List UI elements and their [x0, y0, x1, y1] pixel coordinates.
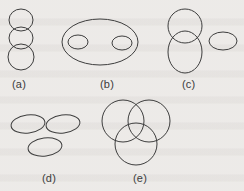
ellipse-a-bottom	[8, 44, 34, 70]
panel-label-c: (c)	[182, 78, 195, 90]
ellipse-d-top-right	[45, 113, 81, 135]
panel-a-shapes	[8, 9, 34, 70]
ellipse-a-top	[9, 9, 33, 31]
panel-c-shapes	[168, 9, 237, 73]
ellipse-d-bottom	[27, 136, 63, 158]
ellipse-c-bottom	[168, 31, 202, 73]
panel-label-d: (d)	[42, 172, 56, 184]
panel-label-e: (e)	[133, 172, 147, 184]
panel-e-shapes	[102, 100, 170, 165]
panel-d-shapes	[10, 113, 81, 158]
panel-b-shapes	[62, 19, 138, 65]
ellipse-d-top-left	[10, 113, 46, 135]
ellipse-c-separate	[209, 32, 237, 50]
panel-label-b: (b)	[100, 78, 114, 90]
ellipse-c-top	[168, 9, 202, 43]
set-diagram-figure: (a)(b)(c)(d)(e)	[0, 0, 244, 191]
shape-layer	[8, 9, 237, 165]
diagram-canvas	[0, 0, 244, 191]
ellipse-b-inner-left	[68, 35, 88, 49]
ellipse-a-middle	[9, 27, 33, 49]
circle-e-top-left	[102, 100, 144, 142]
panel-label-a: (a)	[12, 78, 26, 90]
ellipse-b-inner-right	[112, 36, 132, 50]
circle-e-bottom	[115, 123, 157, 165]
circle-e-top-right	[128, 100, 170, 142]
ellipse-b-outer	[62, 19, 138, 65]
